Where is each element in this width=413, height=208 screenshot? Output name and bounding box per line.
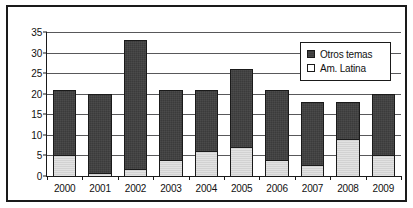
x-axis-tick-mark — [224, 176, 225, 180]
y-axis-tick-mark — [43, 155, 47, 156]
x-axis-tick-mark — [330, 176, 331, 180]
x-axis-tick-label: 2004 — [196, 183, 217, 194]
bar-segment-otros-temas — [88, 94, 111, 173]
bar-segment-am-latina — [195, 151, 218, 176]
x-axis-tick-label: 2006 — [266, 183, 287, 194]
legend-label-am-latina: Am. Latina — [320, 63, 366, 74]
bar-segment-am-latina — [159, 160, 182, 176]
gridline — [47, 32, 401, 33]
bar-segment-am-latina — [301, 165, 324, 176]
bar-2005 — [230, 69, 253, 176]
bar-2001 — [88, 94, 111, 176]
bar-segment-am-latina — [372, 155, 395, 176]
chart-legend: Otros temas Am. Latina — [300, 42, 391, 81]
y-axis-tick-label: 25 — [31, 68, 42, 79]
bar-segment-otros-temas — [301, 102, 324, 165]
bar-segment-otros-temas — [159, 90, 182, 160]
y-axis-tick-mark — [43, 114, 47, 115]
legend-swatch-dark-icon — [307, 50, 315, 58]
bar-2009 — [372, 94, 395, 176]
bar-segment-otros-temas — [265, 90, 288, 161]
figure-frame: 05101520253035 2000200120022003200420052… — [6, 5, 407, 202]
x-axis-tick-mark — [153, 176, 154, 180]
y-axis-tick-mark — [43, 93, 47, 94]
bar-2007 — [301, 102, 324, 176]
y-axis-tick-label: 5 — [37, 150, 42, 161]
x-axis-tick-label: 2007 — [302, 183, 323, 194]
bar-2006 — [265, 90, 288, 176]
x-axis-tick-mark — [118, 176, 119, 180]
bar-2000 — [53, 90, 76, 176]
bar-segment-otros-temas — [195, 90, 218, 152]
bar-segment-am-latina — [124, 169, 147, 176]
bar-segment-am-latina — [53, 155, 76, 176]
bar-2004 — [195, 90, 218, 176]
bar-segment-otros-temas — [372, 94, 395, 156]
x-axis-tick-mark — [366, 176, 367, 180]
x-axis-tick-mark — [47, 176, 48, 180]
legend-swatch-light-icon — [307, 64, 315, 72]
bar-segment-am-latina — [336, 139, 359, 176]
legend-label-otros-temas: Otros temas — [320, 49, 372, 60]
bar-segment-am-latina — [88, 173, 111, 176]
bar-2002 — [124, 40, 147, 176]
x-axis-tick-label: 2008 — [337, 183, 358, 194]
y-axis-tick-label: 35 — [31, 27, 42, 38]
x-axis-tick-label: 2005 — [231, 183, 252, 194]
y-axis-tick-label: 15 — [31, 109, 42, 120]
legend-item-otros-temas: Otros temas — [307, 47, 384, 61]
legend-item-am-latina: Am. Latina — [307, 61, 384, 75]
x-axis-tick-mark — [401, 176, 402, 180]
x-axis-tick-label: 2000 — [54, 183, 75, 194]
y-axis-tick-label: 20 — [31, 88, 42, 99]
bar-2003 — [159, 90, 182, 176]
y-axis-tick-mark — [43, 134, 47, 135]
x-axis-tick-label: 2001 — [89, 183, 110, 194]
bar-segment-otros-temas — [53, 90, 76, 156]
y-axis-tick-mark — [43, 52, 47, 53]
y-axis-tick-label: 30 — [31, 47, 42, 58]
x-axis-tick-mark — [295, 176, 296, 180]
bar-segment-am-latina — [265, 160, 288, 176]
x-axis-tick-mark — [82, 176, 83, 180]
y-axis-tick-mark — [43, 32, 47, 33]
y-axis-tick-label: 0 — [37, 171, 42, 182]
bar-segment-otros-temas — [124, 40, 147, 168]
y-axis-tick-label: 10 — [31, 129, 42, 140]
x-axis-tick-mark — [259, 176, 260, 180]
x-axis-tick-mark — [189, 176, 190, 180]
bar-segment-otros-temas — [230, 69, 253, 147]
x-axis-tick-label: 2009 — [373, 183, 394, 194]
y-axis-tick-mark — [43, 73, 47, 74]
chart-figure: 05101520253035 2000200120022003200420052… — [0, 0, 413, 208]
bar-2008 — [336, 102, 359, 176]
bar-segment-otros-temas — [336, 102, 359, 139]
x-axis-tick-label: 2003 — [160, 183, 181, 194]
x-axis-tick-label: 2002 — [125, 183, 146, 194]
bar-segment-am-latina — [230, 147, 253, 176]
